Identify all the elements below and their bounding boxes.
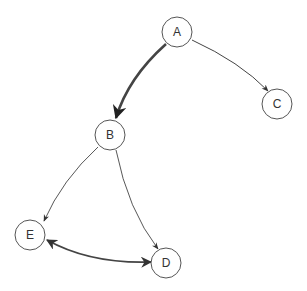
- node-a-label: A: [173, 25, 181, 39]
- node-a[interactable]: A: [162, 17, 192, 47]
- node-c[interactable]: C: [262, 89, 292, 119]
- node-e-label: E: [26, 228, 34, 242]
- edge-b-to-e: [44, 147, 98, 221]
- node-b[interactable]: B: [95, 120, 125, 150]
- node-b-label: B: [106, 128, 114, 142]
- node-d[interactable]: D: [151, 248, 181, 278]
- graph-canvas: A B C D E: [0, 0, 307, 291]
- node-d-label: D: [162, 256, 171, 270]
- edge-b-to-d: [116, 150, 158, 249]
- edge-e-d-bidirectional: [47, 240, 151, 262]
- edge-a-to-c: [192, 40, 268, 91]
- edge-a-to-b: [116, 44, 166, 118]
- node-c-label: C: [273, 97, 282, 111]
- node-e[interactable]: E: [15, 220, 45, 250]
